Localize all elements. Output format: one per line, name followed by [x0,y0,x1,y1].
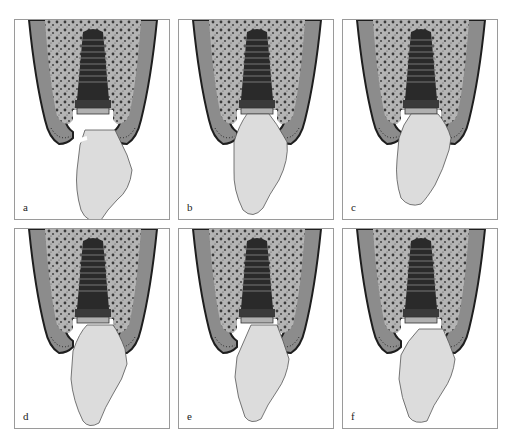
panel-d: d [14,228,170,429]
implant-illustration-c [343,20,498,220]
implant-illustration-e [179,229,334,429]
panel-label-f: f [351,411,355,422]
panel-b: b [178,19,334,220]
panel-label-c: c [351,202,356,213]
implant-illustration-d [15,229,170,429]
panel-c: c [342,19,498,220]
panel-label-b: b [187,202,193,213]
panel-f: f [342,228,498,429]
implant-illustration-f [343,229,498,429]
panel-label-d: d [23,411,29,422]
panel-label-e: e [187,411,192,422]
panel-label-a: a [23,202,28,213]
panel-e: e [178,228,334,429]
implant-illustration-a [15,20,170,220]
panel-a: a [14,19,170,220]
implant-illustration-b [179,20,334,220]
